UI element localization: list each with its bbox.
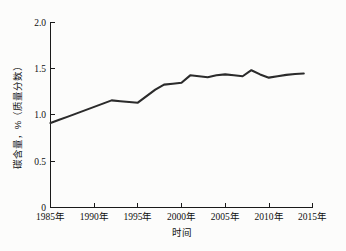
y-tick-label: 1.5 xyxy=(34,64,46,74)
x-tick-label: 1990年 xyxy=(80,211,109,222)
y-axis-title: 碳含量，%（质量分数） xyxy=(12,61,23,169)
x-tick-label: 2005年 xyxy=(211,211,240,222)
y-tick-label: 1.0 xyxy=(34,110,46,120)
y-tick-label: 2.0 xyxy=(34,18,46,28)
chart-page: 0 0.5 1.0 1.5 2.0 1985年 1990年 1995年 2000… xyxy=(0,0,346,251)
x-tick-label: 2000年 xyxy=(167,211,196,222)
x-tick-label: 1985年 xyxy=(36,211,65,222)
carbon-content-line-chart: 0 0.5 1.0 1.5 2.0 1985年 1990年 1995年 2000… xyxy=(0,0,346,251)
x-tick-label: 2010年 xyxy=(255,211,284,222)
x-tick-label: 1995年 xyxy=(123,211,152,222)
x-tick-label: 2015年 xyxy=(298,211,327,222)
y-tick-label: 0.5 xyxy=(34,157,46,167)
x-axis-tick-labels: 1985年 1990年 1995年 2000年 2005年 2010年 2015… xyxy=(36,211,327,222)
x-axis-title: 时间 xyxy=(172,227,192,238)
